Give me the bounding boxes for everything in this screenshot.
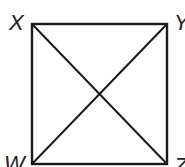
square-diagram: X Y W Z — [0, 0, 185, 167]
vertex-label-y: Y — [174, 10, 185, 35]
vertex-label-z: Z — [173, 153, 185, 167]
vertex-label-x: X — [8, 10, 25, 35]
vertex-label-w: W — [4, 151, 27, 167]
